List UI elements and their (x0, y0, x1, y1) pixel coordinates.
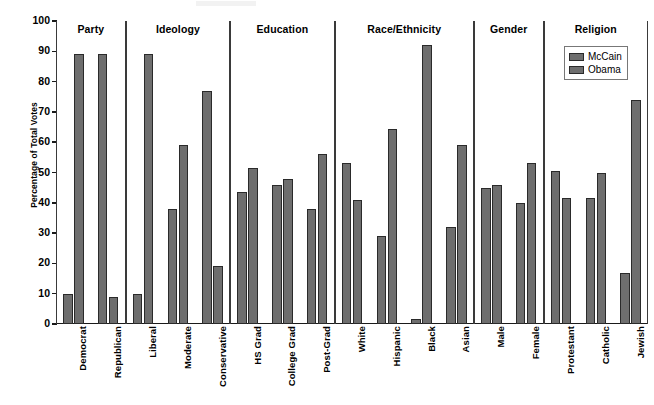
y-axis-tick-label: 50 (38, 166, 50, 179)
bar-mccain-moderate (168, 209, 178, 324)
x-axis-label-liberal: Liberal (147, 326, 158, 358)
bar-obama-conservative (213, 266, 223, 324)
bar-obama-asian (457, 145, 467, 324)
x-axis-labels: DemocratRepublicanLiberalModerateConserv… (56, 326, 648, 405)
bar-chart-figure: Percentage of Total Votes 01020304050607… (0, 0, 654, 405)
x-axis-label-catholic: Catholic (600, 326, 611, 364)
bar-obama-liberal (144, 54, 154, 324)
bar-obama-catholic (597, 173, 607, 325)
x-axis-label-republican: Republican (112, 326, 123, 378)
x-axis-label-hispanic: Hispanic (391, 326, 402, 366)
bar-mccain-white (342, 163, 352, 324)
scan-artifact (196, 1, 256, 6)
bar-obama-moderate (179, 145, 189, 324)
y-axis-tick-label: 40 (38, 196, 50, 209)
legend-swatch-icon (569, 66, 584, 74)
legend-swatch-icon (569, 53, 584, 61)
bar-mccain-asian (446, 227, 456, 324)
y-axis-tick-label: 20 (38, 256, 50, 269)
bar-mccain-republican (98, 54, 108, 324)
y-axis-tick-label: 80 (38, 75, 50, 88)
x-axis-label-hs-grad: HS Grad (252, 326, 263, 365)
bar-obama-black (422, 45, 432, 324)
x-axis-label-protestant: Protestant (565, 326, 576, 374)
bar-obama-post-grad (318, 154, 328, 324)
bar-mccain-male (481, 188, 491, 324)
y-axis-tick-label: 10 (38, 287, 50, 300)
bar-obama-protestant (562, 198, 572, 324)
bar-obama-republican (109, 297, 119, 324)
y-axis-tick-label: 100 (32, 14, 50, 27)
x-axis-label-conservative: Conservative (217, 326, 228, 387)
bars-layer (56, 21, 648, 324)
bar-mccain-catholic (586, 198, 596, 324)
bar-mccain-black (411, 319, 421, 324)
chart-legend: McCainObama (564, 46, 628, 80)
bar-obama-college-grad (283, 179, 293, 324)
legend-label: McCain (588, 51, 622, 63)
x-axis-label-moderate: Moderate (182, 326, 193, 369)
bar-mccain-jewish (620, 273, 630, 325)
x-axis-label-white: White (356, 326, 367, 352)
bar-mccain-female (516, 203, 526, 324)
x-axis-label-jewish: Jewish (635, 326, 646, 358)
bar-obama-jewish (631, 100, 641, 324)
x-axis-label-asian: Asian (460, 326, 471, 352)
legend-item-obama: Obama (569, 63, 622, 76)
bar-mccain-protestant (551, 171, 561, 324)
bar-mccain-democrat (63, 294, 73, 324)
x-axis-label-black: Black (426, 326, 437, 352)
bar-mccain-conservative (202, 91, 212, 324)
x-axis-label-democrat: Democrat (77, 326, 88, 371)
legend-item-mccain: McCain (569, 50, 622, 63)
x-axis-label-post-grad: Post-Grad (321, 326, 332, 373)
bar-obama-hs-grad (248, 168, 258, 324)
x-axis-label-female: Female (530, 326, 541, 359)
y-axis-tick-label: 0 (44, 317, 50, 330)
x-axis-label-male: Male (495, 326, 506, 348)
y-axis-tick-label: 70 (38, 105, 50, 118)
y-axis-tick-label: 60 (38, 135, 50, 148)
bar-mccain-hs-grad (237, 192, 247, 324)
bar-mccain-post-grad (307, 209, 317, 324)
legend-label: Obama (588, 64, 621, 76)
y-axis-tick-label: 30 (38, 226, 50, 239)
bar-obama-democrat (74, 54, 84, 324)
bar-mccain-college-grad (272, 185, 282, 324)
bar-mccain-liberal (133, 294, 143, 324)
bar-obama-male (492, 185, 502, 324)
bar-mccain-hispanic (377, 236, 387, 324)
bar-obama-white (353, 200, 363, 324)
x-axis-label-college-grad: College Grad (286, 326, 297, 386)
y-axis-tick-label: 90 (38, 44, 50, 57)
bar-obama-hispanic (388, 129, 398, 324)
bar-obama-female (527, 163, 537, 324)
